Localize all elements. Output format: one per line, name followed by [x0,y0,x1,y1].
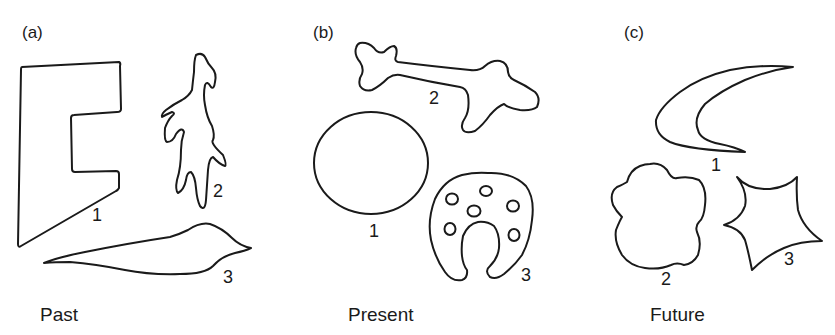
past-shape-2-number: 2 [213,182,223,200]
figure-canvas [0,0,835,335]
panel-b-label: (b) [313,24,334,41]
future-shape-3-number: 3 [784,250,794,268]
present-shape-3-number: 3 [521,266,531,284]
future-shape-2-cloud [612,164,706,269]
panel-a-shapes [18,54,251,274]
past-shape-3 [44,224,251,275]
future-shape-3-star [724,177,822,270]
panel-b-shapes [314,43,539,280]
panel-b-caption: Present [348,305,413,324]
present-shape-2 [356,43,539,132]
future-shape-1-number: 1 [711,156,721,174]
future-shape-2-number: 2 [661,270,671,288]
panel-c-label: (c) [624,24,644,41]
past-shape-1 [18,62,121,247]
past-shape-3-number: 3 [223,268,233,286]
past-shape-1-number: 1 [92,206,102,224]
present-shape-1-number: 1 [369,222,379,240]
future-shape-1-crescent [656,66,793,152]
panel-a-caption: Past [40,305,78,324]
present-shape-2-number: 2 [429,89,439,107]
panel-a-label: (a) [22,24,43,41]
present-shape-1-circle [314,112,428,214]
panel-c-caption: Future [650,305,705,324]
horseshoe-spots [445,186,520,241]
